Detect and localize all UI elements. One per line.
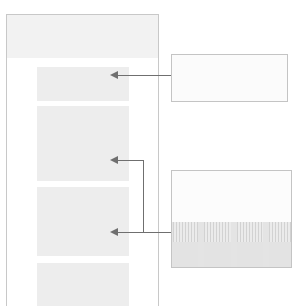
screenshot-canvas (0, 0, 294, 306)
connector-1-arrowhead-icon (110, 71, 118, 79)
bar-group-1 (173, 222, 198, 267)
bar-group-4 (269, 222, 292, 267)
callout-box-top[interactable] (171, 54, 288, 102)
bar-group-3 (237, 222, 263, 267)
document-block-3[interactable] (37, 187, 129, 256)
bar-group-2 (204, 222, 231, 267)
document-block-2[interactable] (37, 106, 129, 181)
connector-2-arrowhead-icon (110, 156, 118, 164)
connector-3-line (117, 232, 171, 233)
callout-body-blank (172, 171, 291, 222)
document-block-4[interactable] (37, 263, 129, 306)
connector-2-riser (143, 160, 144, 233)
document-header-band (7, 15, 158, 58)
connector-2-line (117, 160, 144, 161)
bar-chart (172, 222, 291, 267)
connector-1-line (117, 75, 171, 76)
connector-3-arrowhead-icon (110, 228, 118, 236)
callout-box-bottom[interactable] (171, 170, 292, 268)
